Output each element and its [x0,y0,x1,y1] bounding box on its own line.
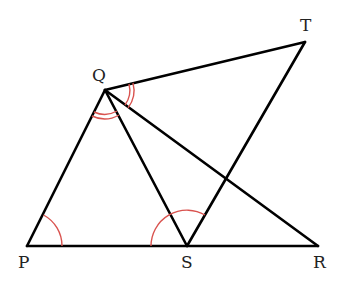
angle-mark-p [44,215,63,246]
angle-mark-q-lower-inner [94,111,117,114]
angle-mark-q-upper-inner [125,84,130,105]
label-t: T [300,15,312,35]
label-r: R [313,252,327,272]
label-p: P [18,252,29,272]
label-s: S [181,252,193,272]
geometry-diagram: Q T P S R [0,0,340,282]
segments [27,42,318,246]
point-labels: Q T P S R [18,15,327,272]
segment-qt [105,42,305,90]
angle-mark-q-lower-outer [92,115,119,119]
segment-qr [105,90,318,246]
segment-pq [27,90,105,246]
label-q: Q [92,65,106,85]
segment-qs [105,90,187,246]
